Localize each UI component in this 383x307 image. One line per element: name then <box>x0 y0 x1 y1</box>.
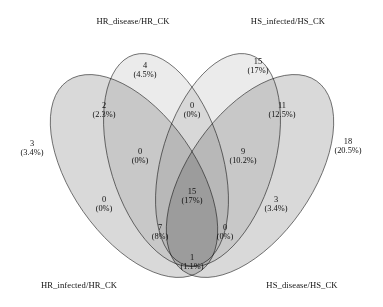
venn-diagram-figure: HR_disease/HR_CK HS_infected/HS_CK HR_in… <box>0 0 383 307</box>
venn-ellipses <box>0 0 383 307</box>
